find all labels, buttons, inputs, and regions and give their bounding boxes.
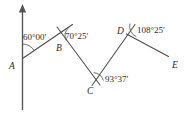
angle-label-b: 70°25′ [65,32,89,41]
line-segment-de [127,34,169,57]
north-arrow-icon [19,4,26,13]
angle-arc-d [130,24,137,37]
point-label-e: E [172,61,178,71]
angle-label-a: 60°00′ [23,33,47,42]
angle-label-d: 108°25′ [137,26,165,35]
point-label-a: A [9,62,15,72]
angle-arc-a [23,44,35,51]
point-label-c: C [87,87,93,97]
diagram-canvas [0,0,190,116]
angle-label-c: 93°37′ [105,75,129,84]
point-label-b: B [56,44,62,54]
traverse-diagram: A B C D E 60°00′ 70°25′ 93°37′ 108°25′ [0,0,190,116]
point-label-d: D [117,27,124,37]
